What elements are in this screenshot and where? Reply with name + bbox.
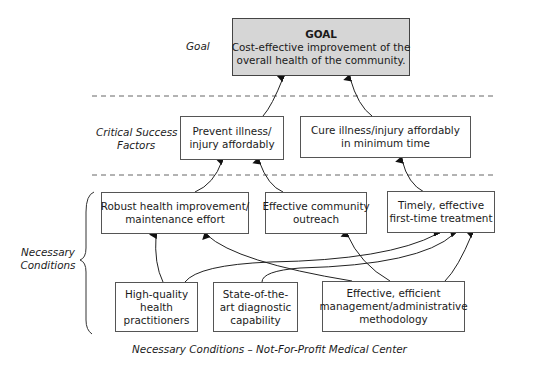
box-text-line: Effective, efficient [346, 287, 440, 300]
arrow-nc6-nc3 [445, 234, 472, 281]
arrow-csf1-goal [263, 78, 283, 116]
box-text-line: Robust health improvement/ [101, 200, 250, 213]
box-text-line: Timely, effective [398, 199, 484, 212]
box-text-line: health [140, 301, 173, 314]
box-text-line: High-quality [125, 288, 188, 301]
arrow-nc3-csf2 [402, 160, 424, 192]
csf-box-prevent-illness: Prevent illness/ injury affordably [180, 116, 284, 160]
box-text-line: management/administrative [319, 300, 467, 313]
arrow-csf2-goal [350, 78, 372, 116]
nc-box-effective-community-outreach: Effective community outreach [265, 192, 367, 234]
arrow-nc4-nc1 [156, 235, 163, 282]
box-text-line: Prevent illness/ [193, 125, 272, 138]
label-line: Factors [96, 139, 176, 152]
goal-title: GOAL [305, 28, 337, 41]
nc-box-robust-health-improvement: Robust health improvement/ maintenance e… [101, 192, 249, 234]
goal-box: GOAL Cost-effective improvement of the o… [232, 18, 410, 76]
box-text-line: first-time treatment [390, 212, 493, 225]
box-text-line: capability [230, 314, 281, 327]
brace-necessary-conditions [80, 192, 94, 334]
label-line: Necessary [20, 246, 76, 259]
nc-box-timely-first-time-treatment: Timely, effective first-time treatment [387, 191, 495, 233]
arrow-nc2-csf1 [259, 161, 283, 192]
box-text-line: State-of-the- [223, 288, 288, 301]
nc-box-high-quality-practitioners: High-quality health practitioners [115, 282, 198, 332]
box-text-line: in minimum time [341, 137, 430, 150]
box-text-line: maintenance effort [125, 213, 225, 226]
nc-box-diagnostic-capability: State-of-the- art diagnostic capability [213, 282, 298, 332]
figure-caption: Necessary Conditions – Not-For-Profit Me… [0, 343, 539, 355]
level-label-critical-success-factors: Critical Success Factors [96, 126, 176, 152]
box-text-line: injury affordably [189, 138, 274, 151]
csf-box-cure-illness: Cure illness/injury affordably in minimu… [300, 116, 471, 158]
box-text-line: Cure illness/injury affordably [311, 124, 460, 137]
box-text-line: art diagnostic [220, 301, 292, 314]
arrow-nc1-csf1 [195, 161, 222, 192]
box-text-line: methodology [359, 313, 427, 326]
goal-text-line: overall health of the community. [237, 54, 406, 67]
label-line: Critical Success [96, 126, 176, 139]
box-text-line: practitioners [124, 314, 190, 327]
arrow-nc5-nc3 [262, 234, 454, 282]
nc-box-management-methodology: Effective, efficient management/administ… [322, 281, 465, 332]
goal-text-line: Cost-effective improvement of the [232, 41, 411, 54]
level-label-goal: Goal [186, 40, 210, 53]
label-line: Conditions [20, 259, 76, 272]
box-text-line: outreach [293, 213, 339, 226]
level-label-necessary-conditions: Necessary Conditions [20, 246, 76, 272]
arrow-nc6-nc1 [207, 235, 352, 281]
box-text-line: Effective community [262, 200, 369, 213]
arrow-nc6-nc2 [347, 234, 390, 281]
